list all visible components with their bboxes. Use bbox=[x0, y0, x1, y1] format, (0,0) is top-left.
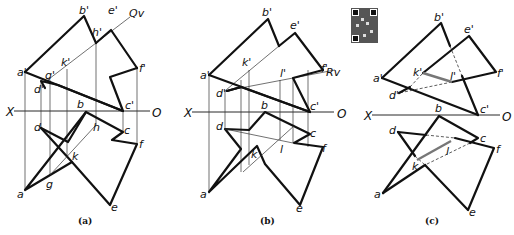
label-e1: e' bbox=[290, 19, 300, 32]
label-k: k bbox=[251, 148, 258, 161]
panel-a: X O Qv b' e' h' k' g' a' d' bbox=[5, 4, 161, 226]
axis-label-o: O bbox=[152, 106, 161, 120]
label-k: k bbox=[72, 150, 79, 163]
axis-label-o: O bbox=[337, 107, 346, 121]
label-a: a bbox=[374, 188, 381, 201]
triangle-top-c bbox=[383, 116, 478, 193]
label-h: h bbox=[93, 121, 100, 134]
label-b1: b' bbox=[434, 11, 444, 24]
triangle-top-a bbox=[25, 112, 137, 205]
label-e1: e' bbox=[108, 4, 118, 17]
label-a1: a' bbox=[373, 72, 383, 85]
label-k1: k' bbox=[413, 66, 422, 79]
label-a: a bbox=[17, 188, 24, 201]
label-f: f bbox=[139, 138, 145, 151]
line-kl-front bbox=[423, 73, 452, 82]
label-k1: k' bbox=[61, 56, 70, 69]
label-e1: e' bbox=[464, 23, 474, 36]
label-c: c bbox=[480, 132, 486, 145]
triangle-top-b bbox=[209, 112, 323, 205]
caption-a: (a) bbox=[78, 216, 92, 226]
label-k: k bbox=[412, 160, 419, 173]
trace-label: Rv bbox=[326, 66, 341, 79]
label-g: g bbox=[46, 178, 53, 191]
label-a1: a' bbox=[200, 69, 210, 82]
panel-c: X O b' e' k' l' a' d' f' c' b d c f bbox=[363, 11, 511, 226]
label-f: f bbox=[322, 142, 328, 155]
label-f1: f' bbox=[139, 62, 146, 75]
axis-label-x: X bbox=[363, 109, 373, 123]
caption-c: (c) bbox=[425, 216, 439, 226]
label-c1: c' bbox=[480, 103, 489, 116]
axis-label-o: O bbox=[502, 110, 511, 124]
qr-code bbox=[350, 7, 378, 45]
label-c1: c' bbox=[310, 100, 319, 113]
triangle-def-front bbox=[96, 30, 137, 68]
label-c: c bbox=[124, 124, 130, 137]
label-c1: c' bbox=[125, 99, 134, 112]
label-b: b bbox=[261, 99, 268, 112]
label-b1: b' bbox=[79, 4, 89, 17]
label-b1: b' bbox=[262, 6, 272, 19]
plane-trace-qv bbox=[45, 17, 130, 82]
label-l: l bbox=[280, 143, 283, 156]
label-g1: g' bbox=[45, 69, 55, 82]
label-d1: d' bbox=[389, 89, 399, 102]
axis-label-x: X bbox=[5, 105, 15, 119]
label-a: a bbox=[200, 188, 207, 201]
label-a1: a' bbox=[17, 66, 27, 79]
label-d: d bbox=[389, 124, 397, 137]
caption-b: (b) bbox=[260, 216, 275, 226]
label-l1: l' bbox=[450, 70, 456, 83]
label-d1: d' bbox=[34, 83, 44, 96]
label-f: f bbox=[496, 143, 502, 156]
label-k1: k' bbox=[242, 56, 251, 69]
label-d: d bbox=[34, 121, 42, 134]
label-l1: l' bbox=[280, 67, 286, 80]
label-b: b bbox=[77, 98, 84, 111]
label-f1: f' bbox=[321, 62, 328, 75]
triangle-def-front bbox=[279, 33, 323, 70]
trace-label: Qv bbox=[129, 7, 145, 20]
label-e: e bbox=[469, 206, 476, 219]
label-e: e bbox=[111, 201, 118, 214]
label-c: c bbox=[310, 127, 316, 140]
label-l: l bbox=[446, 145, 449, 158]
label-f1: f' bbox=[497, 67, 504, 80]
triangle-def-front bbox=[423, 36, 496, 82]
label-d: d bbox=[216, 120, 224, 133]
label-h1: h' bbox=[92, 26, 102, 39]
label-d1: d' bbox=[216, 87, 226, 100]
panel-b: X O Rv b' e' k' l' a' d' f' bbox=[183, 6, 346, 226]
projection-diagram: X O Qv b' e' h' k' g' a' d' bbox=[0, 0, 514, 235]
label-e: e bbox=[296, 202, 303, 215]
axis-label-x: X bbox=[183, 106, 193, 120]
label-b: b bbox=[435, 102, 442, 115]
